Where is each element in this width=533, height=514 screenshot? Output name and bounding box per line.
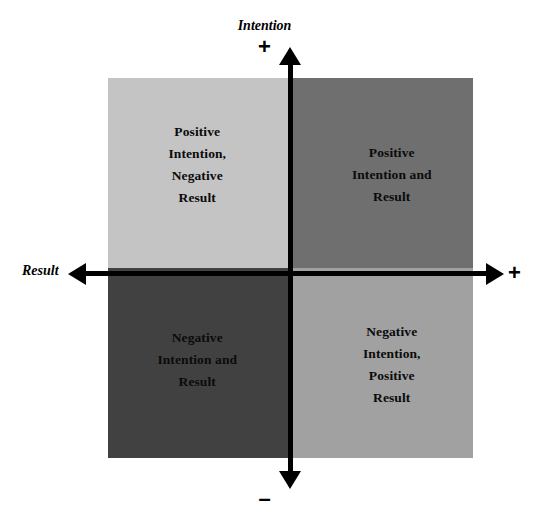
arrow-down-icon bbox=[279, 471, 301, 489]
vertical-axis-positive-sign: + bbox=[0, 36, 531, 58]
vertical-axis-title: Intention bbox=[0, 18, 531, 34]
quadrant-negative-intention-positive-result[interactable]: Negative Intention, Positive Result bbox=[291, 268, 474, 458]
horizontal-axis-line bbox=[80, 271, 492, 276]
horizontal-axis-positive-sign: + bbox=[508, 262, 521, 284]
arrow-right-icon bbox=[486, 263, 504, 285]
arrow-left-icon bbox=[68, 263, 86, 285]
vertical-axis-negative-sign: – bbox=[0, 488, 531, 510]
horizontal-axis-title: Result bbox=[22, 263, 59, 279]
horizontal-axis-negative-sign: – bbox=[85, 262, 97, 284]
quadrant-positive-intention-negative-result[interactable]: Positive Intention, Negative Result bbox=[108, 78, 291, 268]
quadrant-negative-intention-and-result[interactable]: Negative Intention and Result bbox=[108, 268, 291, 458]
quadrant-label: Negative Intention and Result bbox=[157, 327, 237, 393]
quadrant-label: Positive Intention and Result bbox=[352, 142, 432, 208]
quadrant-label: Negative Intention, Positive Result bbox=[363, 321, 421, 408]
diagram-canvas: Positive Intention, Negative Result Posi… bbox=[0, 0, 533, 514]
quadrant-positive-intention-and-result[interactable]: Positive Intention and Result bbox=[291, 78, 474, 268]
vertical-axis-line bbox=[288, 58, 293, 478]
quadrant-label: Positive Intention, Negative Result bbox=[168, 121, 226, 208]
